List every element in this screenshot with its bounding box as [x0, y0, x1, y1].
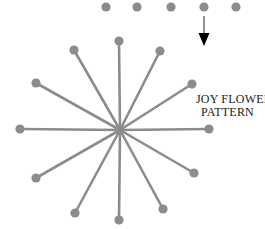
- spoke-w-line: [20, 129, 120, 130]
- spoke-s-tip-dot: [114, 215, 123, 224]
- spoke-n-tip-dot: [114, 36, 123, 45]
- spoke-e-tip-dot: [204, 124, 213, 133]
- top-row-dot-3: [166, 2, 175, 11]
- spoke-s-line: [119, 130, 120, 220]
- top-row-dot-1: [101, 2, 110, 11]
- spoke-ene-tip-dot: [187, 79, 196, 88]
- spoke-ese-tip-dot: [189, 168, 198, 177]
- spoke-nne-tip-dot: [155, 46, 164, 55]
- spoke-sse-tip-dot: [158, 204, 167, 213]
- diagram-canvas-container: JOY FLOWER PATTERN: [0, 0, 265, 229]
- joy-flower-diagram: [0, 0, 265, 229]
- top-row-dot-2: [132, 2, 141, 11]
- spoke-nnw-tip-dot: [69, 45, 78, 54]
- spoke-w-tip-dot: [15, 124, 24, 133]
- spoke-e-line: [120, 129, 209, 130]
- spoke-ssw-tip-dot: [70, 208, 79, 217]
- diagram-background: [0, 0, 265, 229]
- spoke-wsw-tip-dot: [31, 173, 40, 182]
- top-row-dot-5: [231, 2, 240, 11]
- spoke-wnw-tip-dot: [31, 78, 40, 87]
- spoke-n-line: [119, 41, 120, 130]
- top-row-dot-4: [199, 2, 208, 11]
